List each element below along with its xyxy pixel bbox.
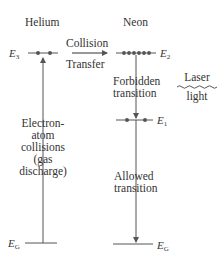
electron-dot <box>36 51 40 55</box>
neon-e2-level <box>116 51 156 55</box>
electron-atom-collisions-label: Electron- atom collisions (gas discharge… <box>6 117 80 177</box>
helium-title: Helium <box>25 16 60 28</box>
neon-title: Neon <box>123 16 148 28</box>
transfer-label: Transfer <box>66 58 105 70</box>
neon-e1-level <box>116 118 153 122</box>
forbidden-transition-label: Forbidden transition <box>113 75 160 99</box>
label-ne-e2: E2 <box>160 48 170 63</box>
allowed-transition-label: Allowed transition <box>114 170 157 194</box>
light-label: light <box>177 90 217 102</box>
helium-neon-laser-energy-diagram: Helium Neon E3 EG E2 E1 EG Collision Tra… <box>0 0 218 256</box>
laser-light-wave <box>177 86 217 89</box>
label-ne-eg: EG <box>157 240 169 255</box>
label-ne-e1: E1 <box>157 115 167 130</box>
label-he-e3: E3 <box>9 48 19 63</box>
label-he-eg: EG <box>8 238 20 253</box>
helium-e3-level <box>28 51 58 55</box>
electron-dot <box>48 51 52 55</box>
collision-label: Collision <box>66 37 108 49</box>
laser-label: Laser <box>177 71 217 83</box>
